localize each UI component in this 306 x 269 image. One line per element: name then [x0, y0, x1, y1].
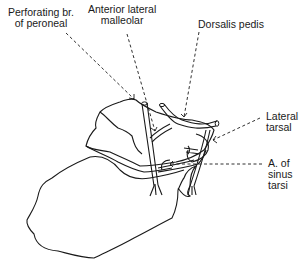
label-lateral-tarsal: Lateral tarsal	[266, 111, 298, 133]
leader-perforating	[66, 33, 134, 99]
leader-lateral-tarsal	[213, 118, 260, 140]
small-branch	[184, 146, 200, 154]
label-perforating-branch-of-peroneal: Perforating br. of peroneal	[8, 7, 74, 29]
perforating-vessel	[142, 103, 162, 196]
leader-lines	[66, 32, 262, 164]
label-anterior-lateral-malleolar: Anterior lateral malleolar	[88, 4, 156, 26]
leader-anterior-lateral-malleolar	[127, 34, 155, 131]
calcaneus-outline	[27, 157, 196, 258]
foot-bone-diagram	[0, 0, 306, 269]
talus-dome	[100, 112, 142, 154]
label-dorsalis-pedis: Dorsalis pedis	[198, 19, 264, 30]
label-artery-of-sinus-tarsi: A. of sinus tarsi	[268, 158, 293, 191]
leader-dorsalis-pedis	[184, 32, 199, 117]
